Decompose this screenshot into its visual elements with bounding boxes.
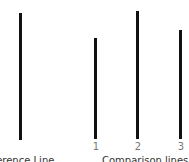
comparison-label-2: 2: [135, 141, 141, 152]
reference-line: [19, 13, 22, 140]
reference-caption: Reference Line: [0, 155, 54, 162]
comparison-line-3: [179, 30, 182, 139]
comparison-label-3: 3: [178, 141, 184, 152]
comparison-line-2: [136, 11, 139, 139]
comparison-line-1: [94, 38, 97, 139]
comparison-label-1: 1: [93, 141, 99, 152]
comparison-caption: Comparison lines: [102, 155, 188, 162]
